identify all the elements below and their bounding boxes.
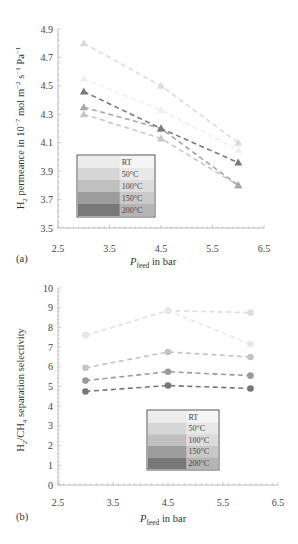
y-axis-title: H2 permeance in 10−7 mol m−2 s−1 Pa−1 [14, 46, 29, 209]
circle-marker [247, 309, 254, 316]
chart-a-permeance: 2.53.54.55.56.53.53.73.94.14.34.54.74.9P… [0, 0, 298, 272]
y-tick-label: 4.5 [41, 80, 54, 91]
triangle-marker [234, 146, 242, 153]
chart-b-selectivity: 2.53.54.55.56.5012345678910Pfeed in barH… [0, 272, 298, 544]
circle-marker [165, 307, 172, 314]
legend-label: RT [189, 413, 199, 422]
legend-swatch [148, 411, 187, 423]
x-tick-label: 2.5 [52, 243, 65, 254]
legend-swatch [78, 180, 120, 192]
y-tick-label: 8 [48, 322, 53, 333]
legend: RT50°C100°C150°C200°C [77, 155, 155, 217]
x-tick-label: 6.5 [272, 497, 285, 508]
y-tick-label: 7 [48, 342, 53, 353]
triangle-marker [80, 103, 88, 110]
circle-marker [82, 364, 89, 371]
legend-label: 50°C [122, 170, 139, 179]
series-200c [82, 382, 254, 395]
circle-marker [247, 354, 254, 361]
legend-label: RT [122, 158, 132, 167]
legend-label: 100°C [189, 436, 210, 445]
y-tick-label: 0 [48, 480, 53, 491]
triangle-marker [234, 159, 242, 166]
y-tick-label: 4 [48, 401, 53, 412]
series-100c [82, 349, 254, 371]
circle-marker [82, 377, 89, 384]
y-tick-label: 4.1 [41, 137, 54, 148]
x-tick-label: 4.5 [162, 497, 175, 508]
legend-swatch [148, 423, 187, 435]
y-tick-label: 3.9 [41, 166, 54, 177]
legend: RT50°C100°C150°C200°C [147, 410, 219, 470]
circle-marker [165, 349, 172, 356]
x-tick-label: 4.5 [155, 243, 168, 254]
legend-swatch [148, 446, 187, 458]
x-axis-title: Pfeed in bar [139, 513, 187, 527]
legend-label: 50°C [189, 424, 206, 433]
circle-marker [247, 372, 254, 379]
legend-swatch [78, 192, 120, 204]
triangle-marker [157, 82, 165, 89]
y-tick-label: 3.5 [41, 223, 54, 234]
series-50c [82, 307, 254, 347]
legend-label: 150°C [122, 194, 143, 203]
panel-label: (b) [16, 511, 29, 523]
x-tick-label: 5.5 [206, 243, 219, 254]
circle-marker [247, 385, 254, 392]
series-group [82, 307, 254, 394]
x-tick-label: 2.5 [52, 497, 65, 508]
circle-marker [165, 368, 172, 375]
series-150c [82, 368, 254, 383]
y-tick-label: 5 [48, 381, 53, 392]
y-tick-label: 4.7 [41, 52, 54, 63]
y-tick-label: 3 [48, 420, 53, 431]
legend-swatch [148, 434, 187, 446]
circle-marker [247, 341, 254, 348]
x-tick-label: 5.5 [217, 497, 230, 508]
y-axis-title: H2/CH4 separation selectivity [15, 327, 29, 451]
legend-swatch [78, 204, 120, 216]
y-tick-label: 9 [48, 302, 53, 313]
triangle-marker [80, 88, 88, 95]
legend-label: 200°C [189, 459, 210, 468]
y-tick-label: 1 [48, 460, 53, 471]
axes: 2.53.54.55.56.53.53.73.94.14.34.54.74.9 [41, 24, 271, 255]
y-tick-label: 4.3 [41, 109, 54, 120]
series-200c [80, 88, 243, 166]
panel-label: (a) [16, 253, 28, 265]
circle-marker [82, 388, 89, 395]
legend-swatch [78, 168, 120, 180]
y-tick-label: 3.7 [41, 194, 54, 205]
circle-marker [82, 332, 89, 339]
circle-marker [165, 382, 172, 389]
x-tick-label: 3.5 [103, 243, 116, 254]
triangle-marker [80, 110, 88, 117]
triangle-marker [80, 39, 88, 46]
y-tick-label: 10 [43, 283, 53, 294]
y-tick-label: 2 [48, 440, 53, 451]
legend-swatch [78, 156, 120, 168]
x-tick-label: 6.5 [258, 243, 271, 254]
axes: 2.53.54.55.56.5012345678910 [43, 283, 284, 509]
legend-label: 150°C [189, 447, 210, 456]
y-tick-label: 6 [48, 361, 53, 372]
legend-label: 100°C [122, 182, 143, 191]
legend-label: 200°C [122, 206, 143, 215]
triangle-marker [80, 75, 88, 82]
x-axis-title: Pfeed in bar [129, 256, 177, 270]
y-tick-label: 4.9 [41, 24, 54, 35]
x-tick-label: 3.5 [107, 497, 120, 508]
legend-swatch [148, 457, 187, 469]
